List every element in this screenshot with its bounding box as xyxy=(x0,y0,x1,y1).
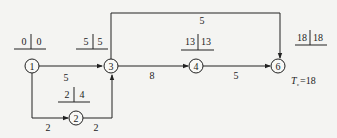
network-diagram: 5 2 2 8 5 5 1 2 3 4 6 0 0 5 5 2 4 xyxy=(0,0,337,138)
earliest-time: 0 xyxy=(22,36,27,47)
node-label: 2 xyxy=(74,113,79,124)
time-params-node-3: 5 5 xyxy=(76,34,108,49)
node-label: 4 xyxy=(194,61,199,72)
earliest-time: 13 xyxy=(185,36,195,47)
node-3: 3 xyxy=(104,59,118,73)
latest-time: 0 xyxy=(37,36,42,47)
node-label: 1 xyxy=(30,61,35,72)
node-1: 1 xyxy=(25,59,39,73)
time-params-node-4: 13 13 xyxy=(181,34,214,50)
arrow-3-6 xyxy=(111,13,280,59)
time-params-node-2: 2 4 xyxy=(58,87,90,102)
node-4: 4 xyxy=(189,59,203,73)
time-params-node-6: 18 18 xyxy=(295,30,327,45)
earliest-time: 18 xyxy=(297,32,307,43)
node-2: 2 xyxy=(69,111,83,125)
node-label: 3 xyxy=(109,61,114,72)
latest-time: 5 xyxy=(98,36,103,47)
node-label: 6 xyxy=(276,61,281,72)
duration-3-4: 8 xyxy=(150,70,155,81)
time-params-node-1: 0 0 xyxy=(14,34,46,49)
earliest-time: 5 xyxy=(84,36,89,47)
latest-time: 18 xyxy=(313,32,323,43)
tc-value: =18 xyxy=(300,75,316,86)
duration-1-3: 5 xyxy=(64,72,69,83)
node-6: 6 xyxy=(271,59,285,73)
latest-time: 13 xyxy=(201,36,211,47)
latest-time: 4 xyxy=(80,89,85,100)
duration-3-6: 5 xyxy=(200,15,205,26)
earliest-time: 2 xyxy=(65,89,70,100)
duration-1-2: 2 xyxy=(46,122,51,133)
duration-4-6: 5 xyxy=(234,70,239,81)
arrow-2-3 xyxy=(83,75,112,118)
duration-2-3: 2 xyxy=(94,122,99,133)
calculated-period: T c =18 xyxy=(291,75,316,87)
